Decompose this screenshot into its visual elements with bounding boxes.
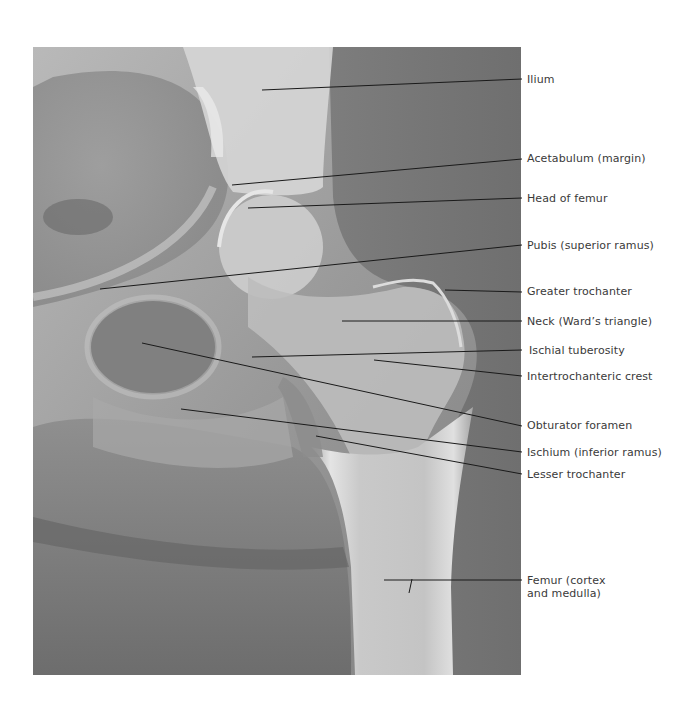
- label-femur: Femur (cortex and medulla): [527, 574, 606, 600]
- label-ischial-tuberosity: Ischial tuberosity: [529, 344, 625, 357]
- label-greater-trochanter: Greater trochanter: [527, 285, 632, 298]
- radiograph-figure: Ilium Acetabulum (margin) Head of femur …: [0, 0, 695, 717]
- xray-illustration: [33, 47, 521, 675]
- label-lesser-trochanter: Lesser trochanter: [527, 468, 625, 481]
- label-pubis: Pubis (superior ramus): [527, 239, 654, 252]
- label-intertrochanteric-crest: Intertrochanteric crest: [527, 370, 653, 383]
- label-neck: Neck (Ward’s triangle): [527, 315, 652, 328]
- label-acetabulum: Acetabulum (margin): [527, 152, 646, 165]
- label-ischium: Ischium (inferior ramus): [527, 446, 662, 459]
- label-ilium: Ilium: [527, 73, 555, 86]
- label-head-of-femur: Head of femur: [527, 192, 608, 205]
- label-obturator-foramen: Obturator foramen: [527, 419, 632, 432]
- hip-radiograph-image: [33, 47, 521, 675]
